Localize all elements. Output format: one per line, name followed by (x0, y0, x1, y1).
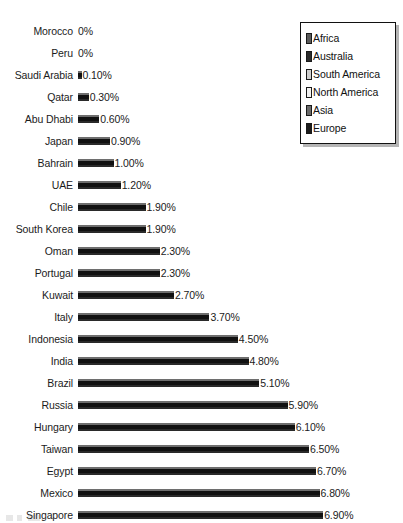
legend-label: Australia (313, 50, 353, 62)
value-label: 1.90% (147, 223, 176, 235)
bar (78, 115, 99, 123)
bar-and-value: 5.10% (78, 379, 289, 387)
legend-item[interactable]: Australia (306, 47, 391, 65)
value-label: 1.90% (147, 201, 176, 213)
bar (78, 357, 249, 365)
value-label: 5.10% (260, 377, 289, 389)
bar-row: Russia5.90% (0, 394, 403, 416)
bar-and-value: 1.20% (78, 181, 151, 189)
bar (78, 445, 309, 453)
value-label: 0.10% (83, 69, 112, 81)
bar-row: Portugal2.30% (0, 262, 403, 284)
legend-item[interactable]: Africa (306, 29, 391, 47)
bar-row: Brazil5.10% (0, 372, 403, 394)
legend-label: Europe (313, 122, 346, 134)
bar (78, 247, 160, 255)
bar-and-value: 4.80% (78, 357, 279, 365)
legend-item[interactable]: North America (306, 83, 391, 101)
value-label: 2.30% (161, 267, 190, 279)
legend-item[interactable]: Europe (306, 119, 391, 137)
legend-label: Asia (313, 104, 333, 116)
legend-item[interactable]: Asia (306, 101, 391, 119)
category-label: Italy (0, 311, 73, 323)
legend-swatch-icon (306, 33, 312, 44)
legend-swatch-icon (306, 105, 312, 116)
value-label: 0.90% (111, 135, 140, 147)
bar-and-value: 0.90% (78, 137, 140, 145)
value-label: 6.90% (324, 509, 353, 521)
bar (78, 203, 146, 211)
category-label: Russia (0, 399, 73, 411)
bar-row: Taiwan6.50% (0, 438, 403, 460)
category-label: Japan (0, 135, 73, 147)
bar (78, 335, 238, 343)
bar (78, 291, 174, 299)
legend-swatch-icon (306, 123, 312, 134)
category-label: Kuwait (0, 289, 73, 301)
bar (78, 401, 288, 409)
category-label: Portugal (0, 267, 73, 279)
bar-row: Egypt6.70% (0, 460, 403, 482)
bar-row: UAE1.20% (0, 174, 403, 196)
value-label: 0.60% (100, 113, 129, 125)
bar-chart: Morocco0%Peru0%Saudi Arabia0.10%Qatar0.3… (0, 0, 403, 523)
bar-and-value: 0.30% (78, 93, 119, 101)
category-label: Bahrain (0, 157, 73, 169)
legend-swatch-icon (306, 69, 312, 80)
bar-row: Hungary6.10% (0, 416, 403, 438)
bar-and-value: 2.70% (78, 291, 204, 299)
value-label: 4.80% (250, 355, 279, 367)
bar (78, 467, 316, 475)
category-label: Morocco (0, 25, 73, 37)
bar-row: Oman2.30% (0, 240, 403, 262)
chart-legend: AfricaAustraliaSouth AmericaNorth Americ… (300, 22, 396, 144)
value-label: 0.30% (90, 91, 119, 103)
category-label: Mexico (0, 487, 73, 499)
value-label: 3.70% (210, 311, 239, 323)
value-label: 0% (78, 25, 93, 37)
bar-and-value: 2.30% (78, 247, 190, 255)
category-label: Indonesia (0, 333, 73, 345)
value-label: 2.70% (175, 289, 204, 301)
bar (78, 269, 160, 277)
value-label: 1.00% (115, 157, 144, 169)
bar-and-value: 3.70% (78, 313, 240, 321)
bar (78, 137, 110, 145)
bar-row: Kuwait2.70% (0, 284, 403, 306)
legend-swatch-icon (306, 51, 312, 62)
category-label: Qatar (0, 91, 73, 103)
bar (78, 423, 295, 431)
bar-and-value: 4.50% (78, 335, 268, 343)
bar-row: Bahrain1.00% (0, 152, 403, 174)
bar (78, 379, 259, 387)
value-label: 6.70% (317, 465, 346, 477)
bar-and-value: 1.90% (78, 203, 176, 211)
value-label: 6.10% (296, 421, 325, 433)
bar-row: Mexico6.80% (0, 482, 403, 504)
category-label: Peru (0, 47, 73, 59)
bar (78, 489, 320, 497)
bar (78, 71, 82, 79)
bar (78, 93, 89, 101)
category-label: Abu Dhabi (0, 113, 73, 125)
value-label: 5.90% (289, 399, 318, 411)
category-label: South Korea (0, 223, 73, 235)
category-label: UAE (0, 179, 73, 191)
legend-label: North America (313, 86, 378, 98)
bar (78, 225, 146, 233)
category-label: Saudi Arabia (0, 69, 73, 81)
bar (78, 313, 209, 321)
bar-and-value: 0% (78, 49, 93, 57)
bar-and-value: 1.90% (78, 225, 176, 233)
bar-and-value: 0.10% (78, 71, 112, 79)
bar-and-value: 2.30% (78, 269, 190, 277)
value-label: 2.30% (161, 245, 190, 257)
bar-and-value: 0.60% (78, 115, 130, 123)
bar-and-value: 5.90% (78, 401, 318, 409)
legend-label: South America (313, 68, 380, 80)
bar-and-value: 0% (78, 27, 93, 35)
legend-label: Africa (313, 32, 339, 44)
legend-item[interactable]: South America (306, 65, 391, 83)
bar-row: Chile1.90% (0, 196, 403, 218)
legend-swatch-icon (306, 87, 312, 98)
